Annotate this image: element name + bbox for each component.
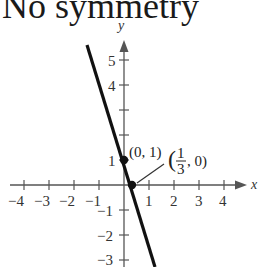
svg-text:−4: −4 — [8, 193, 24, 209]
y-axis-label: y — [116, 18, 125, 33]
svg-text:−3: −3 — [97, 252, 113, 267]
x-axis-arrow-icon — [235, 181, 247, 190]
svg-text:1: 1 — [108, 153, 116, 169]
svg-text:−2: −2 — [59, 193, 75, 209]
svg-text:−3: −3 — [34, 193, 50, 209]
svg-text:(: ( — [168, 146, 176, 172]
svg-text:3: 3 — [195, 193, 203, 209]
svg-text:1: 1 — [145, 193, 153, 209]
x-tick-labels: −4 −3 −2 −1 1 2 3 4 — [8, 193, 227, 209]
svg-text:3: 3 — [177, 161, 185, 177]
point-label-0-1: (0, 1) — [129, 144, 162, 161]
svg-text:−2: −2 — [97, 228, 113, 244]
svg-text:2: 2 — [170, 193, 178, 209]
point-third-0 — [128, 181, 136, 189]
leader-line — [137, 164, 164, 183]
point-0-1 — [120, 156, 128, 164]
svg-text:1: 1 — [177, 145, 185, 161]
svg-text:4: 4 — [108, 78, 116, 94]
chart-plot: y x −4 −3 −2 −1 1 2 3 4 1 4 5 −1 −2 −3 (… — [0, 0, 263, 267]
point-label-third-0: ( 1 3 , 0) — [168, 145, 207, 177]
svg-text:, 0): , 0) — [187, 153, 207, 170]
svg-text:4: 4 — [219, 193, 227, 209]
svg-text:−1: −1 — [97, 203, 113, 219]
x-axis-label: x — [250, 177, 258, 192]
svg-text:5: 5 — [108, 53, 116, 69]
y-axis-arrow-icon — [120, 40, 129, 52]
